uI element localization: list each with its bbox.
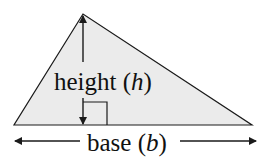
base-label: base (b) [87,129,167,157]
height-label-close: ) [144,68,152,96]
diagram-canvas: height (h) base (b) [0,0,274,166]
base-variable: b [146,129,159,156]
height-label-word: height ( [54,68,131,96]
base-label-word: base ( [87,129,146,157]
base-label-close: ) [159,129,167,157]
height-variable: h [131,68,144,95]
triangle-diagram: height (h) base (b) [0,0,274,166]
height-label: height (h) [54,68,152,96]
